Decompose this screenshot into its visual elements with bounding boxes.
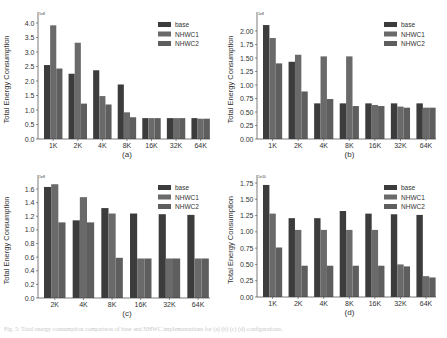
legend-label-nhwc1: NHWC1	[401, 194, 425, 201]
bar-base-64k	[187, 215, 194, 298]
x-axis-label: (b)	[345, 150, 355, 159]
bar-nhwc1-2k	[75, 43, 81, 139]
y-tick-label: 3.0	[25, 49, 35, 56]
legend-swatch-nhwc2	[384, 204, 397, 209]
x-tick-label: 64K	[192, 301, 205, 308]
figure-caption: Fig. 5: Total energy consumption compari…	[4, 326, 444, 336]
y-tick-label: 1.25	[240, 68, 254, 75]
y-tick-label: 0.5	[25, 121, 35, 128]
legend-label-base: base	[175, 184, 189, 191]
bar-base-32k	[167, 118, 173, 139]
legend-label-nhwc1: NHWC1	[401, 31, 425, 38]
bar-nhwc2-2k	[58, 222, 65, 298]
bar-nhwc1-2k	[295, 230, 301, 297]
legend-label-nhwc1: NHWC1	[175, 31, 199, 38]
bar-nhwc2-16k	[378, 106, 384, 139]
x-tick-label: 2K	[74, 142, 83, 149]
x-tick-label: 2K	[50, 301, 59, 308]
y-axis-label: Total Energy Consumption	[226, 196, 235, 284]
x-axis-label: (d)	[345, 308, 355, 317]
bar-nhwc1-32k	[397, 264, 403, 297]
bar-nhwc1-8k	[124, 112, 130, 139]
bar-base-16k	[130, 214, 137, 298]
y-tick-label: 0.50	[240, 261, 254, 268]
bar-nhwc2-64k	[429, 277, 435, 297]
legend-label-nhwc1: NHWC1	[175, 194, 199, 201]
y-axis-label: Total Energy Consumption	[2, 197, 11, 285]
bar-chart-b: Total Energy Consumption1e81K2K4K8K16K32…	[224, 0, 447, 165]
x-tick-label: 2K	[294, 142, 303, 149]
bar-base-8k	[118, 84, 124, 139]
bar-nhwc1-32k	[397, 107, 403, 139]
y-tick-label: 0.6	[25, 254, 35, 261]
bar-base-64k	[416, 215, 422, 297]
x-tick-label: 16K	[145, 142, 158, 149]
bar-nhwc2-16k	[144, 258, 151, 298]
x-tick-label: 8K	[345, 300, 354, 307]
y-tick-label: 0.75	[240, 245, 254, 252]
bar-base-16k	[365, 214, 371, 297]
y-tick-label: 0.2	[25, 281, 35, 288]
bar-base-4k	[93, 70, 99, 139]
x-tick-label: 64K	[194, 142, 207, 149]
bar-nhwc1-8k	[109, 214, 116, 298]
bar-nhwc1-4k	[321, 56, 327, 139]
bar-base-8k	[101, 208, 108, 298]
bar-nhwc1-4k	[80, 197, 87, 298]
legend-swatch-nhwc2	[158, 41, 171, 46]
bar-base-8k	[340, 211, 346, 297]
bar-nhwc2-64k	[204, 119, 210, 139]
y-exponent-label: 1e8	[258, 12, 264, 16]
y-tick-label: 2.5	[25, 63, 35, 70]
legend-swatch-nhwc1	[384, 195, 397, 200]
y-exponent-label: 1e10	[258, 175, 266, 179]
bar-nhwc1-2k	[51, 184, 58, 298]
x-tick-label: 32K	[163, 301, 176, 308]
legend-swatch-base	[158, 22, 171, 27]
bar-base-1k	[263, 25, 269, 139]
bar-nhwc1-16k	[372, 230, 378, 297]
bar-nhwc2-64k	[429, 108, 435, 139]
y-tick-label: 0.25	[240, 277, 254, 284]
x-tick-label: 64K	[420, 142, 433, 149]
y-tick-label: 1.5	[25, 92, 35, 99]
chart-panel-a: Total Energy Consumption1e81K2K4K8K16K32…	[0, 0, 224, 165]
x-tick-label: 4K	[319, 300, 328, 307]
legend-label-base: base	[175, 21, 189, 28]
y-tick-label: 0.4	[25, 267, 35, 274]
bar-base-64k	[191, 118, 197, 139]
x-tick-label: 1K	[268, 142, 277, 149]
bar-nhwc1-4k	[321, 230, 327, 297]
bar-nhwc2-2k	[301, 266, 307, 297]
y-tick-label: 0.75	[240, 95, 254, 102]
bar-base-32k	[391, 103, 397, 139]
bar-nhwc2-16k	[378, 266, 384, 297]
y-tick-label: 0.8	[25, 240, 35, 247]
bar-base-8k	[340, 103, 346, 139]
y-axis-label: Total Energy Consumption	[2, 36, 11, 124]
legend-label-nhwc2: NHWC2	[401, 40, 425, 47]
bar-nhwc1-1k	[269, 214, 275, 297]
bar-nhwc1-64k	[195, 258, 202, 298]
bar-nhwc2-4k	[105, 104, 111, 139]
y-tick-label: 0.00	[240, 294, 254, 301]
x-tick-label: 64K	[420, 300, 433, 307]
bar-nhwc1-32k	[166, 258, 173, 298]
bar-base-2k	[289, 218, 295, 297]
bar-nhwc1-16k	[372, 105, 378, 139]
bar-base-4k	[314, 218, 320, 297]
y-exponent-label: 1e8	[39, 175, 45, 179]
y-tick-label: 1.50	[240, 196, 254, 203]
chart-panel-d: Total Energy Consumption1e101K2K4K8K16K3…	[224, 165, 447, 325]
x-tick-label: 1K	[49, 142, 58, 149]
legend-label-nhwc2: NHWC2	[401, 203, 425, 210]
x-axis-label: (a)	[122, 150, 132, 159]
y-tick-label: 1.00	[240, 228, 254, 235]
y-tick-label: 1.4	[25, 199, 35, 206]
bar-nhwc1-2k	[295, 55, 301, 139]
y-tick-label: 1.75	[240, 180, 254, 187]
x-tick-label: 1K	[268, 300, 277, 307]
y-tick-label: 0.0	[25, 136, 35, 143]
bar-nhwc1-64k	[198, 119, 204, 139]
bar-nhwc1-64k	[423, 276, 429, 297]
